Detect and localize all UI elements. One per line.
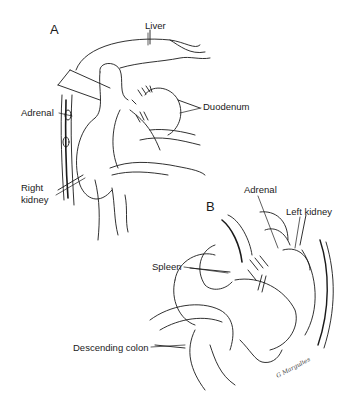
label-left-kidney: Left kidney — [286, 206, 332, 217]
leader-left-kidney — [295, 217, 300, 248]
label-liver: Liver — [145, 20, 166, 31]
figure-canvas: A B Liver Adrenal Duodenum Right kidney … — [0, 0, 357, 404]
label-descending-colon: Descending colon — [73, 342, 149, 353]
label-duodenum: Duodenum — [203, 101, 249, 112]
leader-duodenum — [180, 108, 201, 113]
leader-adrenal-b — [258, 196, 278, 248]
panel-a-label: A — [50, 22, 59, 37]
label-right-kidney-line2: kidney — [21, 194, 48, 205]
illustration-art — [0, 0, 357, 404]
label-adrenal-a: Adrenal — [21, 107, 54, 118]
label-adrenal-b: Adrenal — [244, 184, 277, 195]
label-spleen: Spleen — [152, 261, 182, 272]
leader-spleen — [184, 267, 228, 273]
panel-b-label: B — [206, 199, 215, 214]
label-right-kidney-line1: Right — [21, 182, 43, 193]
panel-a-drawing — [52, 30, 210, 240]
